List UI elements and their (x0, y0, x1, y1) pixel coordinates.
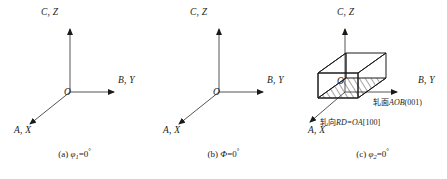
rolling-direction-italic-text: RD=OA (336, 118, 363, 127)
cube-top-face (318, 53, 386, 73)
panel-b: C, Z B, Y A, X O (b) Φ=0° (149, 0, 298, 179)
axis-label-by: B, Y (418, 76, 435, 86)
panel-c-caption: (c) φ2=0° (298, 150, 447, 160)
origin-label: O (64, 88, 71, 98)
rolling-direction-annotation: 轧向RD=OA[100] (320, 119, 380, 127)
panel-a-caption: (a) φ1=0° (0, 150, 149, 160)
axis-label-cz: C, Z (337, 8, 354, 18)
rolling-plane-cn-text: 轧面 (373, 98, 389, 107)
rolling-plane-indices: (001) (405, 98, 422, 107)
rolling-plane-italic-text: AOB (389, 98, 405, 107)
axis-label-cz: C, Z (190, 8, 207, 18)
axis-label-by: B, Y (267, 76, 284, 86)
panel-c-caption-degree: ° (386, 147, 389, 154)
panel-b-caption-prefix: (b) (208, 149, 219, 159)
rolling-direction-indices: [100] (363, 118, 380, 127)
panel-b-caption-value: =0 (227, 149, 237, 159)
panel-a-caption-subscript: 1 (75, 153, 78, 160)
origin-label: O (213, 88, 220, 98)
panel-c-caption-value: =0 (377, 149, 387, 159)
panel-a-caption-degree: ° (88, 147, 91, 154)
panel-b-caption: (b) Φ=0° (149, 150, 298, 160)
panel-c: C, Z B, Y A, X O 轧面AOB(001) 轧向RD=OA[100]… (298, 0, 447, 179)
axis-label-ax: A, X (14, 126, 31, 136)
panel-a: C, Z B, Y A, X O (a) φ1=0° (0, 0, 149, 179)
cube-bottom-face-hatched (318, 78, 386, 98)
panel-b-caption-degree: ° (237, 147, 240, 154)
origin-label: O (337, 77, 344, 87)
rolling-plane-annotation: 轧面AOB(001) (373, 99, 422, 107)
panel-a-caption-prefix: (a) (58, 149, 68, 159)
panel-c-caption-subscript: 2 (373, 153, 376, 160)
panel-b-axes-drawing (149, 0, 298, 145)
axis-label-ax: A, X (308, 126, 325, 136)
axis-label-by: B, Y (118, 76, 135, 86)
panel-a-caption-value: =0 (79, 149, 89, 159)
panel-a-axes-drawing (0, 0, 149, 145)
axis-label-ax: A, X (163, 126, 180, 136)
axis-label-cz: C, Z (41, 8, 58, 18)
rolling-direction-cn-text: 轧向 (320, 118, 336, 127)
euler-angle-figure: C, Z B, Y A, X O (a) φ1=0° C, Z B, Y A, … (0, 0, 447, 179)
panel-c-caption-prefix: (c) (356, 149, 366, 159)
